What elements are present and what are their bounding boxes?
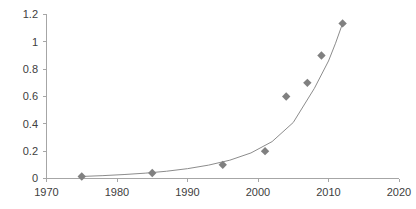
trend-line [82,23,343,176]
data-point [338,19,346,27]
y-axis-tick-marks [43,15,47,179]
x-tick-label: 2010 [316,186,340,198]
y-tick-label: 1 [32,36,38,48]
data-point [303,79,311,87]
y-tick-label: 1.2 [23,8,38,20]
data-point-markers [78,19,347,180]
data-point [317,51,325,59]
chart-container: 0 0.2 0.4 0.6 0.8 1 1.2 1970 1980 [0,0,416,209]
x-tick-label: 2000 [246,186,270,198]
x-tick-label: 1990 [175,186,199,198]
y-tick-label: 0.8 [23,63,38,75]
y-tick-label: 0.4 [23,118,38,130]
y-tick-label: 0.2 [23,145,38,157]
scatter-chart: 0 0.2 0.4 0.6 0.8 1 1.2 1970 1980 [0,0,416,209]
data-point [219,161,227,169]
x-tick-label: 1970 [34,186,58,198]
y-axis-group: 0 0.2 0.4 0.6 0.8 1 1.2 [23,8,47,184]
y-tick-label: 0 [32,172,38,184]
y-axis-tick-labels: 0 0.2 0.4 0.6 0.8 1 1.2 [23,8,38,184]
data-point [78,172,86,180]
x-axis-tick-labels: 1970 1980 1990 2000 2010 2020 [34,186,411,198]
data-point [261,147,269,155]
x-tick-label: 2020 [387,186,411,198]
x-axis-tick-marks [47,179,400,183]
x-axis-group: 1970 1980 1990 2000 2010 2020 [34,179,411,199]
x-tick-label: 1980 [105,186,129,198]
data-point [282,92,290,100]
y-tick-label: 0.6 [23,90,38,102]
data-point [148,169,156,177]
